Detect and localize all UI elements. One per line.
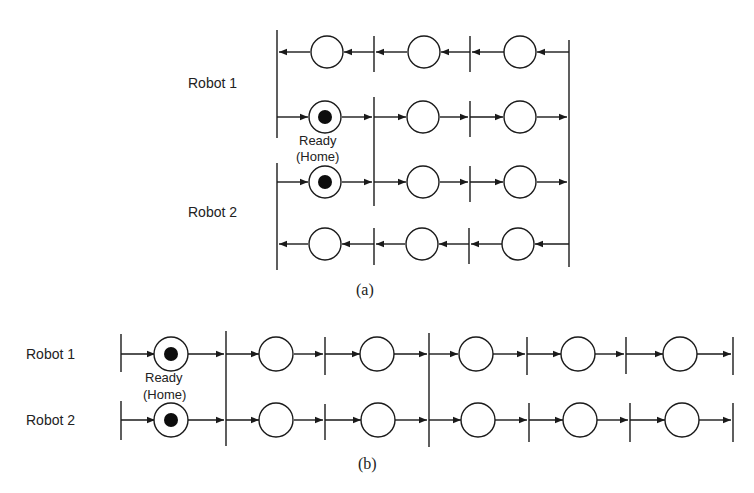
token bbox=[164, 347, 178, 361]
place bbox=[663, 337, 697, 371]
place bbox=[259, 403, 293, 437]
home-label-line1-b: Ready bbox=[145, 370, 183, 385]
token bbox=[318, 175, 332, 189]
place bbox=[311, 36, 343, 68]
row-a-robot2-return bbox=[279, 228, 569, 260]
place bbox=[408, 36, 440, 68]
home-label-line1-a: Ready bbox=[299, 133, 337, 148]
row-a-robot2-outbound bbox=[277, 166, 567, 198]
place bbox=[406, 228, 438, 260]
home-label-line2-a: (Home) bbox=[296, 149, 339, 164]
token bbox=[164, 413, 178, 427]
row-a-robot1-outbound bbox=[277, 101, 567, 133]
row-a-robot1-return bbox=[279, 36, 569, 68]
caption-a: (a) bbox=[356, 281, 374, 299]
row-b-robot1 bbox=[121, 337, 731, 371]
place bbox=[561, 337, 595, 371]
place bbox=[459, 337, 493, 371]
robot2-label-b: Robot 2 bbox=[26, 412, 75, 428]
home-label-line2-b: (Home) bbox=[143, 387, 186, 402]
place bbox=[504, 166, 536, 198]
petri-net-figure: Robot 1 Robot 2 bbox=[0, 0, 754, 493]
place bbox=[361, 403, 395, 437]
place bbox=[563, 403, 597, 437]
row-b-robot2 bbox=[121, 403, 731, 437]
place bbox=[309, 228, 341, 260]
token bbox=[318, 110, 332, 124]
robot2-label-a: Robot 2 bbox=[188, 204, 237, 220]
diagram-a: Robot 1 Robot 2 bbox=[188, 30, 569, 299]
place bbox=[360, 337, 394, 371]
place bbox=[407, 101, 439, 133]
place bbox=[407, 166, 439, 198]
robot1-label-b: Robot 1 bbox=[26, 346, 75, 362]
robot1-label-a: Robot 1 bbox=[188, 75, 237, 91]
place bbox=[461, 403, 495, 437]
place bbox=[504, 36, 536, 68]
caption-b: (b) bbox=[358, 455, 377, 473]
diagram-b: Robot 1 Robot 2 bbox=[26, 331, 733, 473]
place bbox=[504, 101, 536, 133]
place bbox=[259, 337, 293, 371]
place bbox=[665, 403, 699, 437]
place bbox=[502, 228, 534, 260]
